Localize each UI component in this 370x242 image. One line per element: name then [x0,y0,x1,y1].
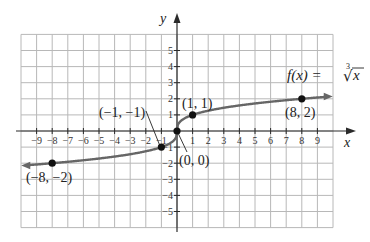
y-tick-label: 3 [168,77,173,88]
point-label-8: (8, 2) [285,105,316,121]
y-axis-arrow-icon [174,13,181,23]
svg-text:f(x) =: f(x) = [287,67,322,84]
data-point [158,144,165,151]
y-tick-label: −5 [162,206,173,217]
point-label-1: (1, 1) [182,96,213,112]
x-tick-label: 9 [315,135,320,146]
data-point [189,111,196,118]
x-tick-label: −5 [94,135,105,146]
x-tick-label: −4 [109,135,120,146]
leader-line-origin [178,133,187,152]
x-tick-label: 1 [190,135,195,146]
x-tick-label: 2 [206,135,211,146]
x-tick-label: −2 [140,135,151,146]
function-label-lhs: f(x) = [287,67,322,84]
x-tick-label: 5 [253,135,258,146]
x-axis-arrow-icon [346,128,356,135]
y-tick-label: −4 [162,190,173,201]
x-tick-label: −3 [125,135,136,146]
x-tick-label: −8 [47,135,58,146]
x-tick-label: 6 [268,135,273,146]
y-tick-label: 2 [168,93,173,104]
data-point [49,160,56,167]
y-tick-label: 1 [168,109,173,120]
function-label: f(x) = 3 √ x [287,62,364,85]
point-label-neg1: (−1, −1) [99,105,145,121]
y-axis-label: y [158,11,167,26]
point-label-origin: (0, 0) [179,153,210,169]
radical-icon: √ [343,67,353,85]
x-tick-label: −9 [31,135,42,146]
x-tick-label: 8 [299,135,304,146]
axes: x y [16,11,356,232]
cube-root-graph: x y −9−8−7−6−5−4−3−2−112345678954321−1−2… [0,0,370,242]
point-label-neg8: (−8, −2) [26,170,72,186]
x-tick-label: −6 [78,135,89,146]
function-label-radicand: x [352,67,360,83]
x-axis-label: x [343,135,351,150]
data-point [173,127,180,134]
y-tick-label: 4 [168,61,173,72]
y-tick-label: −3 [162,174,173,185]
y-tick-label: 5 [168,45,173,56]
x-tick-label: 4 [237,135,242,146]
y-tick-label: −2 [162,158,173,169]
data-point [298,95,305,102]
x-tick-label: −7 [62,135,73,146]
x-tick-label: 7 [284,135,289,146]
x-tick-label: 3 [221,135,226,146]
